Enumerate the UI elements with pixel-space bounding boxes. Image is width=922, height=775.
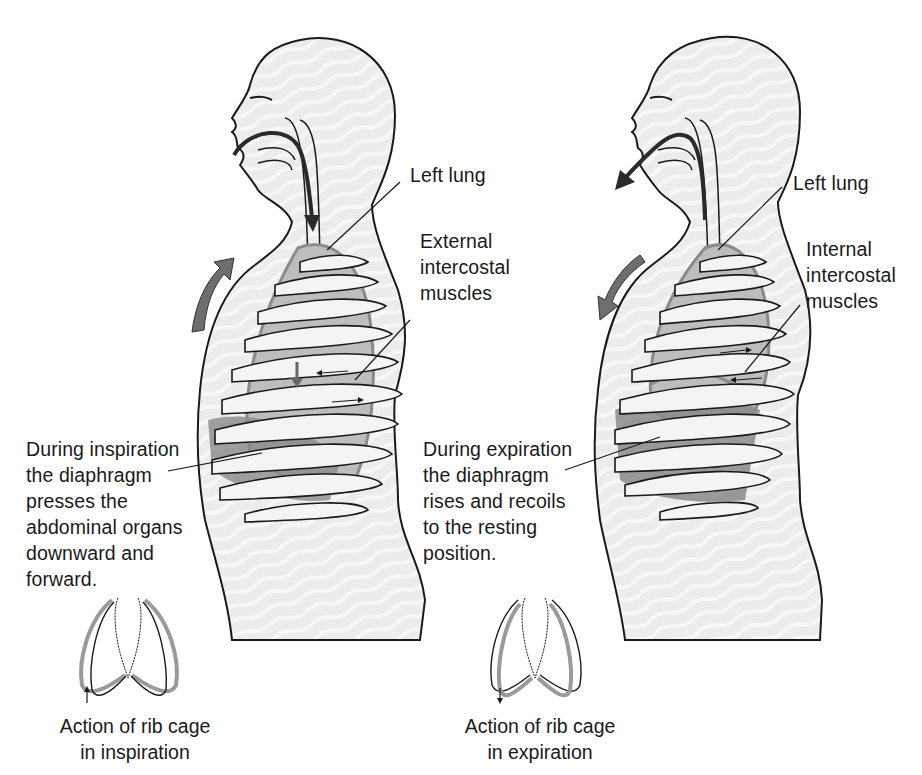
respiration-diagram bbox=[0, 0, 922, 775]
rib-cage-inspiration-diagram bbox=[81, 598, 177, 703]
rib-cage-inspiration-caption: Action of rib cage in inspiration bbox=[30, 713, 240, 765]
inspiration-figure bbox=[168, 38, 425, 640]
external-intercostal-muscles-label: External intercostal muscles bbox=[420, 228, 510, 306]
rib-cage-expiration-diagram bbox=[491, 598, 581, 704]
left-lung-label-expiration: Left lung bbox=[793, 170, 869, 196]
inspiration-diaphragm-description: During inspiration the diaphragm presses… bbox=[26, 436, 183, 592]
rib-cage-expiration-caption: Action of rib cage in expiration bbox=[440, 713, 640, 765]
expiration-figure bbox=[565, 37, 822, 640]
expiration-diaphragm-description: During expiration the diaphragm rises an… bbox=[423, 436, 572, 566]
left-lung-label-inspiration: Left lung bbox=[410, 162, 486, 188]
internal-intercostal-muscles-label: Internal intercostal muscles bbox=[806, 236, 896, 314]
